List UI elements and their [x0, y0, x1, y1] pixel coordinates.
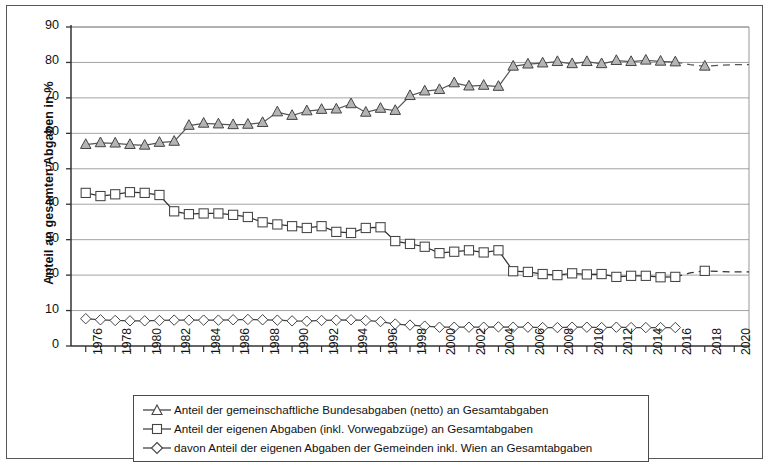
y-tick-label: 60 [33, 124, 59, 138]
x-tick-label: 2000 [444, 328, 458, 355]
x-tick-label: 2002 [474, 328, 488, 355]
data-point-marker [111, 190, 120, 199]
series-1 [81, 188, 749, 282]
data-point-marker [597, 269, 606, 278]
data-point-marker [125, 188, 134, 197]
data-point-marker [95, 315, 105, 325]
series-0 [80, 54, 749, 149]
data-point-marker [478, 80, 489, 90]
data-point-marker [331, 315, 341, 325]
data-point-marker [257, 117, 268, 127]
data-point-marker [641, 54, 652, 64]
x-tick-label: 1998 [415, 328, 429, 355]
data-point-marker [198, 315, 208, 325]
data-point-marker [391, 236, 400, 245]
data-point-marker [523, 267, 532, 276]
data-point-marker [450, 247, 459, 256]
x-tick-label: 1996 [386, 328, 400, 355]
chart-legend: Anteil der gemeinschaftliche Bundesabgab… [133, 395, 649, 462]
legend-label-0: Anteil der gemeinschaftliche Bundesabgab… [174, 403, 548, 416]
data-point-marker [509, 267, 518, 276]
y-tick-label: 20 [33, 266, 59, 280]
y-tick-label: 50 [33, 160, 59, 174]
y-tick-label: 70 [33, 89, 59, 103]
data-point-marker [464, 246, 473, 255]
y-tick-label: 90 [33, 18, 59, 32]
series-line [86, 192, 676, 277]
data-point-marker [229, 210, 238, 219]
series-2 [81, 314, 681, 333]
legend-label-1: Anteil der eigenen Abgaben (inkl. Vorweg… [174, 422, 533, 435]
data-point-marker [257, 315, 267, 325]
data-point-marker [140, 188, 149, 197]
y-tick-label: 10 [33, 302, 59, 316]
data-point-marker [346, 98, 357, 108]
data-point-marker [95, 137, 106, 147]
line-chart-plot [7, 6, 764, 460]
data-point-marker [582, 56, 593, 66]
x-tick-label: 1992 [327, 328, 341, 355]
data-point-marker [110, 315, 120, 325]
data-point-marker [316, 104, 327, 114]
data-point-marker [405, 239, 414, 248]
x-tick-label: 2008 [562, 328, 576, 355]
data-point-marker [243, 212, 252, 221]
data-point-marker [538, 269, 547, 278]
data-point-marker [139, 316, 149, 326]
data-point-marker [302, 105, 313, 115]
data-point-marker [611, 55, 622, 65]
data-point-marker [626, 271, 635, 280]
data-point-marker [213, 315, 223, 325]
data-point-marker [273, 220, 282, 229]
data-point-marker [568, 269, 577, 278]
x-tick-label: 2006 [533, 328, 547, 355]
x-tick-label: 2014 [651, 328, 665, 355]
x-tick-label: 1980 [150, 328, 164, 355]
data-point-marker [626, 56, 637, 66]
data-point-marker [523, 322, 533, 332]
legend-item-1: Anteil der eigenen Abgaben (inkl. Vorweg… [142, 419, 642, 438]
data-point-marker [611, 322, 621, 332]
figure-frame: Anteil an gesamten Abgaben in % Anteil d… [6, 5, 763, 459]
data-point-marker [464, 322, 474, 332]
x-tick-label: 2010 [592, 328, 606, 355]
data-point-marker [670, 322, 680, 332]
data-point-marker [552, 56, 563, 66]
data-point-marker [582, 322, 592, 332]
data-point-marker [346, 228, 355, 237]
data-point-marker [700, 266, 709, 275]
data-point-marker [110, 137, 121, 147]
data-point-marker [199, 209, 208, 218]
x-tick-label: 1986 [238, 328, 252, 355]
y-tick-label: 0 [33, 337, 59, 351]
data-point-marker [243, 314, 253, 324]
y-gridlines [71, 27, 749, 311]
x-tick-label: 1984 [209, 328, 223, 355]
data-point-marker [670, 56, 681, 66]
data-point-marker [198, 118, 209, 128]
data-point-marker [154, 137, 165, 147]
data-point-marker [317, 222, 326, 231]
data-point-marker [420, 242, 429, 251]
data-point-marker [287, 316, 297, 326]
legend-label-2: davon Anteil der eigenen Abgaben der Gem… [174, 441, 592, 454]
x-tick-label: 1988 [268, 328, 282, 355]
data-point-marker [419, 85, 430, 95]
data-point-marker [154, 315, 164, 325]
data-point-marker [287, 222, 296, 231]
data-point-marker [272, 106, 283, 116]
data-point-marker [228, 119, 239, 129]
data-point-marker [184, 315, 194, 325]
data-point-marker [169, 315, 179, 325]
data-point-marker [214, 209, 223, 218]
data-point-marker [361, 223, 370, 232]
data-point-marker [376, 223, 385, 232]
x-tick-label: 1978 [120, 328, 134, 355]
data-point-marker [641, 271, 650, 280]
x-tick-label: 2004 [503, 328, 517, 355]
data-point-marker [553, 271, 562, 280]
chart-screenshot: Anteil an gesamten Abgaben in % Anteil d… [0, 0, 770, 465]
y-tick-label: 80 [33, 53, 59, 67]
series-projection-line [675, 271, 749, 277]
legend-marker-diamond-icon [142, 440, 172, 456]
